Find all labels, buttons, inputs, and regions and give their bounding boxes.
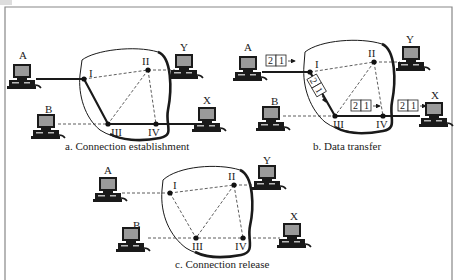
switch-label: IV [235, 240, 247, 252]
svg-text:2: 2 [353, 100, 358, 111]
svg-text:1: 1 [411, 100, 416, 111]
switch-label: IV [148, 126, 160, 138]
host-label: X [431, 89, 439, 101]
switch-label: IV [376, 118, 388, 130]
host-label: A [19, 49, 27, 61]
computer-icon [256, 106, 290, 131]
packet-I-III: 2 1 [307, 74, 331, 105]
host-label: X [203, 94, 211, 106]
svg-text:2: 2 [268, 55, 273, 66]
host-label: Y [263, 154, 271, 166]
panel-caption: a. Connection establishment [65, 140, 189, 152]
computer-icon [7, 64, 41, 89]
switch-label: I [315, 58, 319, 70]
host-label: A [104, 164, 112, 176]
svg-text:1: 1 [279, 55, 284, 66]
host-label: Y [180, 41, 188, 53]
switch-label: III [192, 240, 203, 252]
packet-III-IV: 2 1 [351, 100, 380, 111]
host-label: B [271, 95, 278, 107]
connection-path [262, 72, 420, 116]
switch-II [371, 59, 376, 64]
svg-text:1: 1 [364, 100, 369, 111]
switch-label: I [89, 67, 93, 79]
computer-icon [192, 107, 226, 132]
switch-I [167, 190, 172, 195]
switch-label: III [333, 118, 344, 130]
host-label: Y [406, 33, 414, 45]
host-label: B [45, 103, 52, 115]
packet-A-I: 2 1 [266, 55, 295, 66]
switch-II [145, 67, 150, 72]
connection-path [36, 79, 196, 124]
switch-label: I [173, 179, 177, 191]
switch-I [81, 76, 86, 81]
panel-caption: b. Data transfer [313, 140, 381, 152]
switch-II [231, 182, 236, 187]
switch-label: II [368, 47, 376, 59]
figure-tab [0, 0, 12, 5]
computer-icon [233, 56, 267, 81]
switch-I [307, 69, 312, 74]
computer-icon [31, 114, 65, 139]
host-label: A [244, 41, 252, 53]
packet-IV-X: 2 1 [398, 100, 426, 111]
switch-label: II [142, 55, 150, 67]
switch-III [105, 121, 110, 126]
computer-icon [252, 165, 286, 190]
panel-a: I II III IV A B X Y a. Connection establ… [7, 41, 226, 152]
computer-icon [169, 54, 203, 79]
svg-text:2: 2 [400, 100, 405, 111]
host-label: B [133, 219, 140, 231]
panel-b: I II III IV 2 1 2 1 2 1 2 [233, 33, 453, 152]
panel-c: I II III IV A B X Y c. Connection releas… [93, 154, 311, 270]
computer-icon [277, 223, 311, 248]
computer-icon [93, 177, 127, 202]
virtual-circuit-figure: I II III IV A B X Y a. Connection establ… [0, 0, 456, 280]
switch-label: III [111, 126, 122, 138]
host-label: X [290, 210, 298, 222]
switch-label: II [228, 170, 236, 182]
panel-caption: c. Connection release [175, 258, 269, 270]
computer-icon [396, 46, 430, 71]
